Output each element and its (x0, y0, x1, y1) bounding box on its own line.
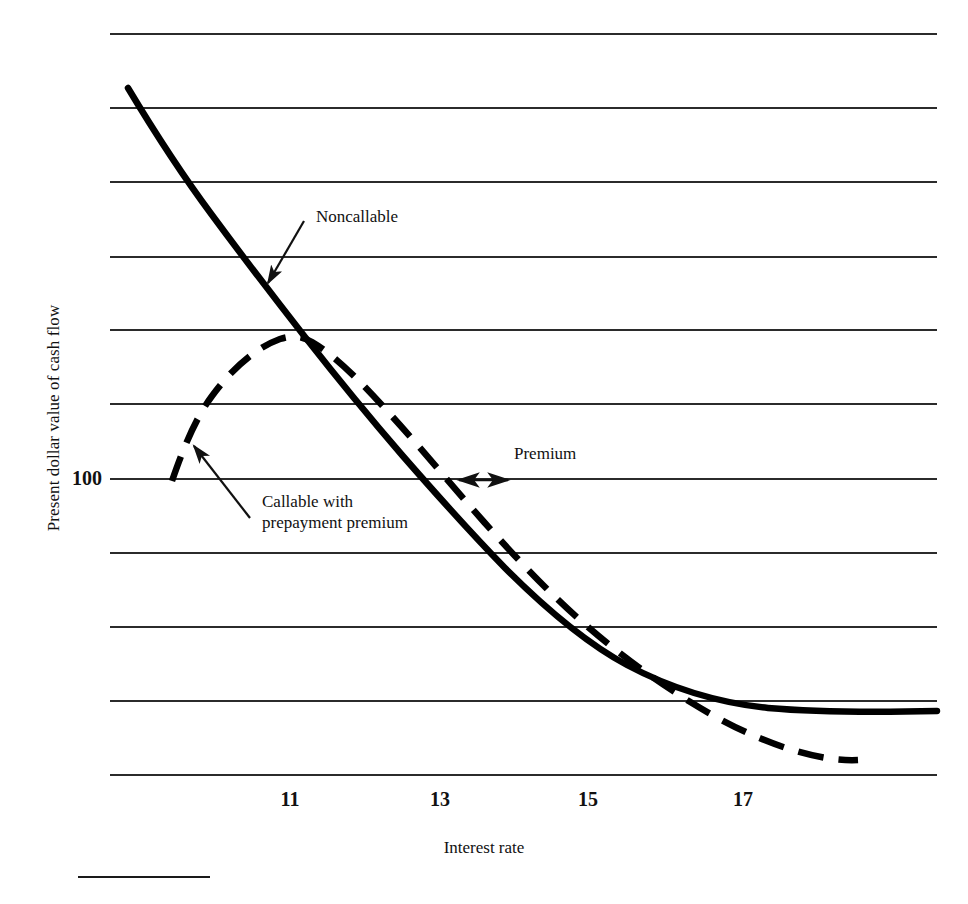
callable-arrow (194, 446, 250, 518)
x-tick-label-13: 13 (410, 789, 470, 809)
y-axis-label: Present dollar value of cash flow (44, 248, 64, 588)
x-tick-label-17: 17 (713, 789, 773, 809)
annotation-noncallable: Noncallable (316, 207, 398, 228)
x-tick-label-15: 15 (558, 789, 618, 809)
annotation-callable: Callable with prepayment premium (262, 492, 408, 533)
annotation-premium: Premium (514, 444, 576, 465)
x-tick-label-11: 11 (260, 789, 320, 809)
x-axis-label: Interest rate (0, 838, 968, 858)
gridlines (110, 34, 937, 775)
series-callable-curve (172, 337, 858, 761)
figure-container: Present dollar value of cash flow 100 11… (0, 0, 968, 904)
chart-plot-area (0, 0, 968, 904)
noncallable-arrow (268, 221, 304, 283)
footnote-rule (78, 876, 210, 878)
y-tick-label-100: 100 (54, 468, 102, 488)
